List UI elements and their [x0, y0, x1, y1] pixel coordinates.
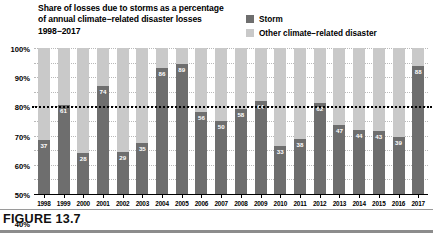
- x-axis-tick-mark: [182, 194, 183, 198]
- stacked-bar[interactable]: 43: [373, 48, 385, 194]
- reference-line-60: [32, 106, 432, 108]
- bar-segment-other: [195, 48, 207, 112]
- bar-segment-other: [412, 48, 424, 66]
- x-axis-tick-mark: [300, 194, 301, 198]
- legend-swatch-storm: [246, 15, 254, 23]
- bar-segment-storm: 64: [255, 101, 267, 194]
- bar-segment-storm: 35: [136, 143, 148, 194]
- bar-value-label: 58: [235, 111, 247, 118]
- x-axis-tick: [389, 194, 409, 199]
- bar-value-label: 56: [195, 114, 207, 121]
- x-axis-tick-mark: [142, 194, 143, 198]
- bar-group: 3761287429358689565058643338624744433988: [34, 48, 428, 194]
- bar-segment-storm: 47: [333, 125, 345, 194]
- stacked-bar[interactable]: 89: [176, 48, 188, 194]
- bar-slot: 88: [408, 48, 428, 194]
- bar-slot: 62: [310, 48, 330, 194]
- chart-title-line-2: of annual climate−related disaster losse…: [38, 14, 253, 25]
- bar-segment-other: [156, 48, 168, 68]
- x-axis-tick-mark: [320, 194, 321, 198]
- bar-value-label: 29: [117, 154, 129, 161]
- bar-segment-storm: 29: [117, 152, 129, 194]
- bar-value-label: 37: [38, 142, 50, 149]
- stacked-bar[interactable]: 44: [353, 48, 365, 194]
- caption-rule-top: [0, 209, 433, 210]
- chart-title: Share of losses due to storms as a perce…: [38, 3, 253, 37]
- bar-slot: 47: [330, 48, 350, 194]
- x-axis-tick: [34, 194, 54, 199]
- bar-segment-storm: 28: [77, 153, 89, 194]
- bar-segment-storm: 89: [176, 64, 188, 194]
- x-axis-tick-mark: [339, 194, 340, 198]
- x-axis-tick: [133, 194, 153, 199]
- stacked-bar[interactable]: 37: [38, 48, 50, 194]
- bar-segment-other: [38, 48, 50, 140]
- bar-value-label: 39: [393, 139, 405, 146]
- bar-segment-storm: 74: [97, 86, 109, 194]
- bar-segment-other: [255, 48, 267, 101]
- x-axis-tick-mark: [201, 194, 202, 198]
- bar-slot: 74: [93, 48, 113, 194]
- stacked-bar[interactable]: 88: [412, 48, 424, 194]
- x-axis-tick: [93, 194, 113, 199]
- bar-slot: 44: [349, 48, 369, 194]
- x-axis-tick: [54, 194, 74, 199]
- bar-segment-storm: 86: [156, 68, 168, 194]
- x-axis-tick: [330, 194, 350, 199]
- legend-swatch-other: [246, 29, 254, 37]
- bar-segment-storm: 39: [393, 137, 405, 194]
- stacked-bar[interactable]: 35: [136, 48, 148, 194]
- stacked-bar[interactable]: 64: [255, 48, 267, 194]
- stacked-bar[interactable]: 47: [333, 48, 345, 194]
- bar-slot: 61: [54, 48, 74, 194]
- x-axis-tick: [369, 194, 389, 199]
- stacked-bar[interactable]: 86: [156, 48, 168, 194]
- x-axis-tick: [231, 194, 251, 199]
- bar-slot: 89: [172, 48, 192, 194]
- bar-slot: 29: [113, 48, 133, 194]
- stacked-bar[interactable]: 56: [195, 48, 207, 194]
- bar-slot: 37: [34, 48, 54, 194]
- bar-slot: 39: [389, 48, 409, 194]
- stacked-bar[interactable]: 28: [77, 48, 89, 194]
- x-axis-tick: [408, 194, 428, 199]
- figure-caption: FIGURE 13.7: [3, 212, 81, 226]
- x-axis-tick-mark: [64, 194, 65, 198]
- bar-segment-storm: 50: [215, 121, 227, 194]
- bar-segment-storm: 56: [195, 112, 207, 194]
- x-axis-tick-mark: [418, 194, 419, 198]
- bar-segment-storm: 58: [235, 109, 247, 194]
- bar-segment-storm: 44: [353, 130, 365, 194]
- y-axis-tick-label: 80%: [15, 103, 30, 112]
- stacked-bar[interactable]: 33: [274, 48, 286, 194]
- x-axis-ticks: [34, 194, 428, 199]
- stacked-bar[interactable]: 58: [235, 48, 247, 194]
- bar-slot: 38: [290, 48, 310, 194]
- y-axis-tick-label: 90%: [15, 74, 30, 83]
- x-axis-tick-mark: [103, 194, 104, 198]
- x-axis-tick-mark: [162, 194, 163, 198]
- bar-segment-other: [117, 48, 129, 152]
- x-axis-tick-mark: [83, 194, 84, 198]
- stacked-bar[interactable]: 50: [215, 48, 227, 194]
- stacked-bar[interactable]: 39: [393, 48, 405, 194]
- stacked-bar[interactable]: 61: [58, 48, 70, 194]
- bar-segment-other: [393, 48, 405, 137]
- stacked-bar[interactable]: 74: [97, 48, 109, 194]
- stacked-bar[interactable]: 29: [117, 48, 129, 194]
- x-axis-tick: [152, 194, 172, 199]
- bar-slot: 33: [270, 48, 290, 194]
- x-axis-tick-mark: [280, 194, 281, 198]
- bar-segment-other: [58, 48, 70, 105]
- x-axis-tick: [251, 194, 271, 199]
- y-axis-tick-label: 60%: [15, 161, 30, 170]
- bar-segment-storm: 61: [58, 105, 70, 194]
- bar-segment-other: [176, 48, 188, 64]
- x-axis-tick-mark: [123, 194, 124, 198]
- stacked-bar[interactable]: 38: [294, 48, 306, 194]
- bar-value-label: 28: [77, 155, 89, 162]
- bar-segment-other: [294, 48, 306, 139]
- stacked-bar[interactable]: 62: [314, 48, 326, 194]
- x-axis-tick: [211, 194, 231, 199]
- bar-slot: 50: [211, 48, 231, 194]
